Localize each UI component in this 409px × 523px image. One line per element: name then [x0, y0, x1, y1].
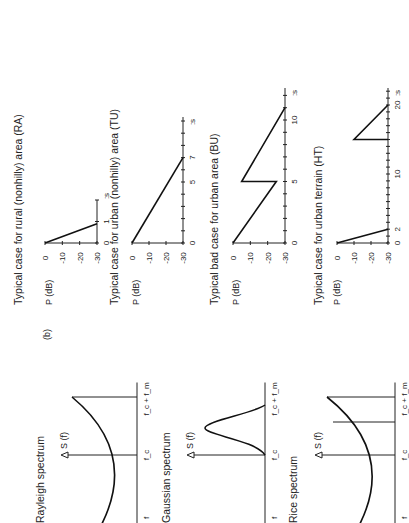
- x-tick-label: 7: [188, 155, 197, 160]
- y-tick-label: -10: [145, 252, 154, 264]
- freq-label-fc-plus-fm: f_c + f_m: [270, 382, 279, 415]
- freq-label-fc-plus-fm: f_c + f_m: [142, 382, 151, 415]
- freq-label-fc-plus-fm: f_c + f_m: [400, 382, 409, 415]
- chart-title: Typical case for urban (nonhilly) area (…: [108, 109, 120, 305]
- y-tick-label: -30: [179, 252, 188, 264]
- y-tick-label: -30: [281, 252, 290, 264]
- y-axis-label: P (dB): [44, 280, 54, 305]
- doppler-spectrum-2: Rice spectrumS (f)f_cf_c + f_mf: [287, 382, 409, 523]
- x-tick-label: 0: [290, 240, 299, 245]
- x-tick-label: 2: [393, 226, 402, 231]
- delay-profile-chart-1: Typical case for urban (nonhilly) area (…: [108, 109, 197, 305]
- spectrum-ylabel: S (f): [59, 432, 69, 449]
- profile-line: [132, 158, 183, 243]
- freq-label-fm-cut: f: [142, 516, 151, 519]
- panel-label: (b): [42, 329, 52, 340]
- freq-label-fm-cut: f: [400, 516, 409, 519]
- y-tick-label: -10: [246, 252, 255, 264]
- freq-label-fc: f_c: [142, 450, 151, 461]
- profile-line: [233, 108, 285, 243]
- x-tick-label: 10: [290, 115, 299, 124]
- x-tick-label: 10: [393, 169, 402, 178]
- y-tick-label: -30: [384, 252, 393, 264]
- y-tick-label: 0: [41, 255, 50, 260]
- freq-label-fc: f_c: [270, 450, 279, 461]
- profile-line: [337, 229, 388, 243]
- y-axis-label: P (dB): [131, 280, 141, 305]
- freq-label-fm-cut: f: [270, 516, 279, 519]
- y-tick-label: -20: [264, 252, 273, 264]
- x-unit-label: :s: [393, 90, 402, 96]
- delay-profile-chart-2: Typical bad case for urban area (BU)P (d…: [208, 88, 299, 305]
- delay-profile-chart-0: Typical case for rural (nonhilly) area (…: [12, 114, 111, 305]
- y-tick-label: -20: [162, 252, 171, 264]
- y-tick-label: -20: [367, 252, 376, 264]
- profile-line: [354, 105, 388, 140]
- x-tick-label: 20: [393, 100, 402, 109]
- y-tick-label: -30: [93, 252, 102, 264]
- rotated-figure: (b)Typical case for rural (nonhilly) are…: [0, 0, 409, 523]
- y-tick-label: -20: [76, 252, 85, 264]
- x-tick-label: 0: [393, 240, 402, 245]
- x-tick-label: 5: [188, 179, 197, 184]
- y-tick-label: 0: [128, 255, 137, 260]
- spectrum-title: Rayleigh spectrum: [34, 436, 46, 523]
- chart-title: Typical bad case for urban area (BU): [208, 133, 220, 305]
- x-tick-label: 0: [188, 240, 197, 245]
- spectrum-ylabel: S (f): [185, 432, 195, 449]
- spectrum-title: Gaussian spectrum: [160, 432, 172, 523]
- doppler-spectrum-0: Rayleigh spectrumS (f)f_cf_c + f_mf: [34, 382, 151, 523]
- y-tick-label: -10: [350, 252, 359, 264]
- x-tick-label: 5: [290, 179, 299, 184]
- y-axis-label: P (dB): [332, 280, 342, 305]
- spectrum-title: Rice spectrum: [287, 456, 299, 523]
- y-tick-label: 0: [229, 255, 238, 260]
- chart-title: Typical case for urban terrain (HT): [312, 146, 324, 305]
- delay-profile-chart-3: Typical case for urban terrain (HT)P (dB…: [312, 88, 402, 305]
- y-tick-label: 0: [333, 255, 342, 260]
- doppler-spectrum-1: Gaussian spectrumS (f)f_cf_c + f_mf: [160, 382, 279, 523]
- x-unit-label: :s: [188, 119, 197, 125]
- freq-label-fc: f_c: [400, 450, 409, 461]
- y-axis-label: P (dB): [231, 280, 241, 305]
- chart-title: Typical case for rural (nonhilly) area (…: [12, 114, 24, 305]
- y-tick-label: -10: [58, 252, 67, 264]
- profile-line: [45, 224, 97, 243]
- spectrum-ylabel: S (f): [313, 432, 323, 449]
- x-unit-label: :s: [290, 90, 299, 96]
